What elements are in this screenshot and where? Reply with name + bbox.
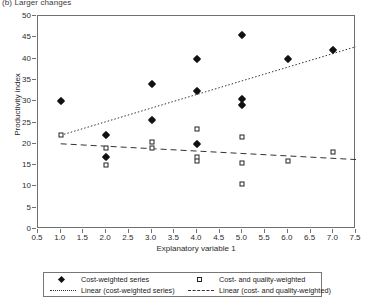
trendline-layer — [38, 16, 356, 229]
x-axis-tick-mark — [219, 229, 220, 233]
x-axis-tick-label: 7.0 — [327, 233, 338, 242]
x-axis-tick-label: 2.5 — [122, 233, 133, 242]
filled-diamond-icon — [50, 275, 76, 284]
x-axis-tick-label: 4.5 — [213, 233, 224, 242]
x-axis-tick-label: 5.0 — [236, 233, 247, 242]
data-point-cost-and-quality-weighted — [240, 160, 245, 165]
legend-entry-linear-cost-weighted: Linear (cost-weighted series) — [50, 286, 175, 295]
figure-container: (b) Larger changes 05101520253035404550 … — [0, 0, 365, 303]
x-axis-tick-label: 3.0 — [145, 233, 156, 242]
legend-entry-cost-and-quality-weighted: Cost- and quality-weighted — [188, 275, 305, 284]
legend-entry-cost-weighted-series: Cost-weighted series — [50, 275, 149, 284]
x-axis-tick-label: 0.5 — [31, 233, 42, 242]
x-axis-tick-label: 5.5 — [259, 233, 270, 242]
data-point-cost-and-quality-weighted — [240, 182, 245, 187]
x-axis-tick-mark — [310, 229, 311, 233]
dashed-line-icon — [188, 286, 214, 295]
figure-caption: (b) Larger changes — [2, 0, 71, 7]
legend-label: Cost-weighted series — [81, 275, 149, 284]
y-axis-tick-mark — [32, 164, 36, 165]
y-axis-tick-mark — [32, 58, 36, 59]
x-axis-tick-mark — [105, 229, 106, 233]
x-axis-tick-label: 6.0 — [281, 233, 292, 242]
data-point-cost-and-quality-weighted — [285, 158, 290, 163]
legend-label: Linear (cost- and quality-weighted) — [219, 286, 331, 295]
chart-legend: Cost-weighted series Cost- and quality-w… — [43, 272, 322, 297]
y-axis-tick-mark — [32, 36, 36, 37]
x-axis-tick-mark — [264, 229, 265, 233]
legend-row-2: Linear (cost-weighted series) Linear (co… — [44, 286, 321, 297]
legend-row-1: Cost-weighted series Cost- and quality-w… — [44, 275, 321, 286]
x-axis-tick-mark — [196, 229, 197, 233]
x-axis-tick-label: 7.5 — [349, 233, 360, 242]
data-point-cost-and-quality-weighted — [149, 139, 154, 144]
legend-entry-linear-cost-and-quality: Linear (cost- and quality-weighted) — [188, 286, 331, 295]
data-point-cost-and-quality-weighted — [149, 146, 154, 151]
y-axis-tick-mark — [32, 100, 36, 101]
y-axis-tick-mark — [32, 207, 36, 208]
x-axis-tick-mark — [37, 229, 38, 233]
legend-label: Linear (cost-weighted series) — [81, 286, 175, 295]
y-axis-tick-mark — [32, 143, 36, 144]
x-axis-tick-mark — [332, 229, 333, 233]
legend-label: Cost- and quality-weighted — [219, 275, 305, 284]
y-axis-tick-mark — [32, 228, 36, 229]
x-axis-label: Explanatory variable 1 — [37, 244, 355, 253]
data-point-cost-and-quality-weighted — [58, 133, 63, 138]
x-axis-tick-mark — [151, 229, 152, 233]
plot-area — [38, 16, 354, 227]
y-axis-tick-mark — [32, 79, 36, 80]
x-axis-tick-mark — [82, 229, 83, 233]
y-axis-tick-mark — [32, 185, 36, 186]
data-point-cost-and-quality-weighted — [104, 146, 109, 151]
x-axis-tick-mark — [173, 229, 174, 233]
x-axis-tick-mark — [355, 229, 356, 233]
data-point-cost-and-quality-weighted — [331, 150, 336, 155]
y-axis-tick-mark — [32, 122, 36, 123]
dotted-line-icon — [50, 286, 76, 295]
open-square-icon — [188, 275, 214, 284]
x-axis-tick-mark — [241, 229, 242, 233]
x-axis-tick-mark — [128, 229, 129, 233]
data-point-cost-and-quality-weighted — [104, 163, 109, 168]
x-axis-tick-label: 6.5 — [304, 233, 315, 242]
data-point-cost-and-quality-weighted — [195, 158, 200, 163]
x-axis-tick-mark — [287, 229, 288, 233]
x-axis-tick-label: 1.5 — [77, 233, 88, 242]
y-axis-tick-mark — [32, 15, 36, 16]
plot-frame — [37, 15, 355, 228]
x-axis-tick-labels: 0.51.01.52.02.53.03.54.04.55.05.56.06.57… — [37, 229, 355, 245]
trendline-dotted — [61, 47, 356, 136]
data-point-cost-and-quality-weighted — [195, 126, 200, 131]
x-axis-tick-label: 2.0 — [100, 233, 111, 242]
x-axis-tick-mark — [60, 229, 61, 233]
y-axis-label: Productivity index — [13, 40, 22, 170]
x-axis-tick-label: 4.0 — [190, 233, 201, 242]
x-axis-tick-label: 3.5 — [168, 233, 179, 242]
x-axis-tick-label: 1.0 — [54, 233, 65, 242]
data-point-cost-and-quality-weighted — [240, 135, 245, 140]
